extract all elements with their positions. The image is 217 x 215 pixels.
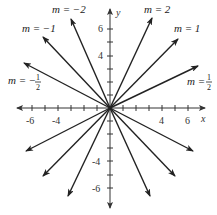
line-slope-neg-half	[24, 63, 193, 151]
y-tick-label: 6	[98, 23, 103, 34]
y-axis-label: y	[115, 7, 121, 18]
y-tick-label: -4	[92, 156, 100, 167]
x-tick-label: -6	[26, 115, 34, 126]
y-tick-label: 4	[98, 50, 103, 61]
slope-label-half-prefix: m =	[187, 75, 205, 87]
slopes-diagram: -6 -4 4 6 x 6 4 -4 -6 y	[0, 0, 217, 215]
x-tick-label: 4	[159, 115, 164, 126]
slope-label-half: m = 1 2	[187, 73, 212, 92]
x-axis-label: x	[200, 113, 206, 124]
slope-label-neg2: m = −2	[52, 3, 86, 15]
slope-label-1: m = 1	[174, 22, 200, 34]
x-tick-label: 6	[185, 115, 190, 126]
fraction-denominator: 2	[36, 83, 40, 92]
y-tick-label: -6	[92, 183, 100, 194]
fraction-numerator: 1	[207, 73, 211, 82]
slope-label-2: m = 2	[144, 3, 171, 15]
fraction-denominator: 2	[207, 83, 211, 92]
slope-label-neg-half: m = − 1 2	[8, 73, 41, 92]
fraction-numerator: 1	[36, 73, 40, 82]
x-tick-label: -4	[52, 115, 60, 126]
slope-label-neg-half-prefix: m = −	[8, 74, 36, 86]
slope-label-neg1: m = −1	[22, 22, 56, 34]
